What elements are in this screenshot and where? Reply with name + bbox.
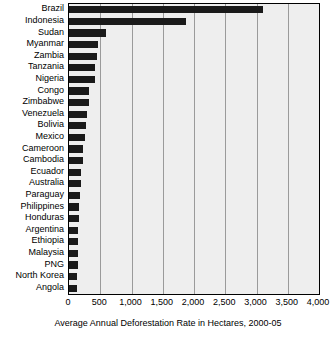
gridline (257, 4, 258, 294)
bar (69, 227, 78, 234)
bar (69, 134, 85, 141)
bar (69, 6, 263, 13)
bar (69, 250, 78, 257)
bar (69, 64, 95, 71)
bar (69, 111, 87, 118)
deforestation-bar-chart: BrazilIndonesiaSudanMyanmarZambiaTanzani… (0, 0, 336, 337)
bar (69, 53, 97, 60)
bar (69, 192, 80, 199)
bar (69, 273, 77, 280)
category-label: Zimbabwe (0, 97, 64, 106)
bar (69, 76, 95, 83)
category-label: Argentina (0, 225, 64, 234)
category-label: Cameroon (0, 144, 64, 153)
category-label: North Korea (0, 271, 64, 280)
bar (69, 18, 186, 25)
x-tick-label: 3,500 (275, 297, 298, 308)
gridline (194, 4, 195, 294)
gridline (225, 4, 226, 294)
x-tick-label: 2,500 (213, 297, 236, 308)
bar (69, 285, 77, 292)
x-tick-label: 500 (92, 297, 107, 308)
x-tick-label: 3,000 (244, 297, 267, 308)
category-label: Zambia (0, 51, 64, 60)
bar (69, 238, 78, 245)
category-label: Ethiopia (0, 236, 64, 245)
x-tick-label: 1,500 (150, 297, 173, 308)
gridline (100, 4, 101, 294)
category-label: Angola (0, 283, 64, 292)
bar (69, 29, 106, 36)
bar (69, 145, 83, 152)
category-label: Brazil (0, 4, 64, 13)
x-axis-title: Average Annual Deforestation Rate in Hec… (0, 318, 336, 329)
category-label: Honduras (0, 213, 64, 222)
category-label: Nigeria (0, 74, 64, 83)
category-label: Australia (0, 178, 64, 187)
gridline (163, 4, 164, 294)
category-label: Venezuela (0, 109, 64, 118)
x-axis-tick-labels: 05001,0001,5002,0002,5003,0003,5004,000 (0, 297, 336, 311)
bar (69, 122, 86, 129)
category-label: Myanmar (0, 39, 64, 48)
category-label: Malaysia (0, 248, 64, 257)
category-label: Tanzania (0, 62, 64, 71)
category-label: Congo (0, 86, 64, 95)
category-label: PNG (0, 260, 64, 269)
x-tick-label: 0 (65, 297, 70, 308)
x-tick-label: 4,000 (307, 297, 330, 308)
bar (69, 87, 89, 94)
bar (69, 203, 79, 210)
category-label: Ecuador (0, 167, 64, 176)
bar (69, 41, 98, 48)
plot-area (68, 3, 320, 295)
category-label: Mexico (0, 132, 64, 141)
bar (69, 215, 79, 222)
category-label: Paraguay (0, 190, 64, 199)
gridline (288, 4, 289, 294)
x-tick-label: 2,000 (182, 297, 205, 308)
category-label: Bolivia (0, 120, 64, 129)
gridline (132, 4, 133, 294)
category-label: Cambodia (0, 155, 64, 164)
category-label: Indonesia (0, 16, 64, 25)
category-label: Philippines (0, 202, 64, 211)
category-axis-labels: BrazilIndonesiaSudanMyanmarZambiaTanzani… (0, 3, 64, 293)
bar (69, 180, 81, 187)
bar (69, 99, 89, 106)
category-label: Sudan (0, 28, 64, 37)
x-tick-label: 1,000 (119, 297, 142, 308)
bar (69, 157, 83, 164)
bar (69, 169, 81, 176)
bar (69, 261, 78, 268)
